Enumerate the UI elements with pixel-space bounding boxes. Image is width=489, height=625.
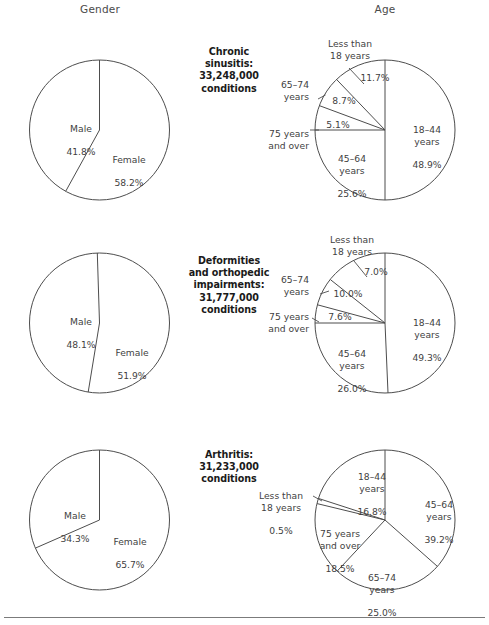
slice-name: 45–64 years (412, 499, 466, 522)
slice-name: Less than 18 years (249, 490, 313, 513)
slice-pct: 48.1% (52, 339, 110, 350)
slice-label-r0-age-75-over: 75 years and over (243, 117, 309, 163)
slice-label-r0-age-45-64: 45–64 years 25.6% (325, 142, 379, 210)
slice-label-r2-age-less18: Less than 18 years 0.5% (249, 479, 313, 547)
slice-label-r1-gender-female: Female 51.9% (103, 336, 161, 393)
slice-pct: 0.5% (249, 525, 313, 536)
slice-pct: 16.8% (345, 506, 399, 517)
slice-name: 18–44 years (400, 124, 454, 147)
center-title-chronic-sinusitis: Chronic sinusitis: 33,248,000 conditions (183, 46, 275, 95)
slice-name: Male (46, 510, 104, 521)
slice-pct-r1-age-75-over: 7.6% (322, 311, 358, 322)
slice-name: Less than 18 years (318, 38, 382, 61)
slice-label-r1-age-less18: Less than 18 years (320, 223, 384, 269)
slice-label-r1-age-45-64: 45–64 years 26.0% (325, 337, 379, 405)
slice-name: 75 years and over (307, 528, 373, 551)
slice-label-r2-gender-female: Female 65.7% (101, 525, 159, 582)
slice-pct-r1-age-less18: 7.0% (358, 266, 394, 277)
slice-pct: 39.2% (412, 534, 466, 545)
slice-label-r0-age-18-44: 18–44 years 48.9% (400, 113, 454, 181)
slice-pct-r1-age-65-74: 10.0% (328, 288, 368, 299)
slice-name: Female (103, 347, 161, 358)
slice-name: Female (101, 536, 159, 547)
slice-name: 75 years and over (243, 128, 309, 151)
slice-label-r1-age-18-44: 18–44 years 49.3% (400, 306, 454, 374)
slice-name: 65–74 years (355, 572, 409, 595)
slice-label-r2-age-45-64: 45–64 years 39.2% (412, 488, 466, 556)
slice-label-r0-gender-female: Female 58.2% (100, 143, 158, 200)
slice-pct: 65.7% (101, 559, 159, 570)
slice-pct: 49.3% (400, 352, 454, 363)
pie-chart-figure: Gender Age (0, 0, 489, 625)
slice-pct: 26.0% (325, 383, 379, 394)
slice-label-r0-age-less18: Less than 18 years (318, 27, 382, 73)
slice-name: 18–44 years (400, 317, 454, 340)
slice-label-r2-gender-male: Male 34.3% (46, 499, 104, 556)
footer-divider (4, 617, 485, 618)
slice-name: Less than 18 years (320, 234, 384, 257)
slice-pct-r0-age-65-74: 8.7% (326, 95, 362, 106)
slice-name: Female (100, 154, 158, 165)
slice-name: 45–64 years (325, 348, 379, 371)
slice-pct: 51.9% (103, 370, 161, 381)
center-title-deformities: Deformities and orthopedic impairments: … (175, 255, 283, 316)
slice-name: Male (52, 123, 110, 134)
slice-pct: 34.3% (46, 533, 104, 544)
slice-pct: 25.6% (325, 188, 379, 199)
slice-pct-r0-age-less18: 11.7% (356, 72, 394, 83)
slice-pct: 58.2% (100, 177, 158, 188)
slice-label-r1-gender-male: Male 48.1% (52, 305, 110, 362)
slice-label-r2-age-65-74: 65–74 years 25.0% (355, 561, 409, 625)
slice-name: 45–64 years (325, 153, 379, 176)
slice-name: 18–44 years (345, 471, 399, 494)
center-title-arthritis: Arthritis: 31,233,000 conditions (183, 449, 275, 486)
slice-name: Male (52, 316, 110, 327)
slice-pct: 48.9% (400, 159, 454, 170)
slice-pct-r0-age-75-over: 5.1% (320, 119, 356, 130)
